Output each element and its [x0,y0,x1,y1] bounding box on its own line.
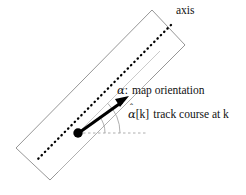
alpha-hat-symbol: α ˆ [128,109,136,121]
map-orientation-text: map orientation [132,85,205,97]
track-course-arrow-shaft [80,102,122,132]
origin-dot [73,128,82,137]
track-course-text: track course at k [153,109,229,121]
axis-label: axis [176,5,195,17]
map-orientation-colon: : [125,85,128,97]
track-course-label: α ˆ [k]track course at k [128,109,229,121]
track-course-index: [k] [136,109,149,121]
figure-root: axis α:map orientation α ˆ [k]track cour… [0,0,246,195]
circumflex-accent-icon: ˆ [128,103,135,113]
alpha-symbol: α [117,85,125,97]
map-orientation-label: α:map orientation [117,85,204,97]
diagram-canvas [0,0,246,195]
